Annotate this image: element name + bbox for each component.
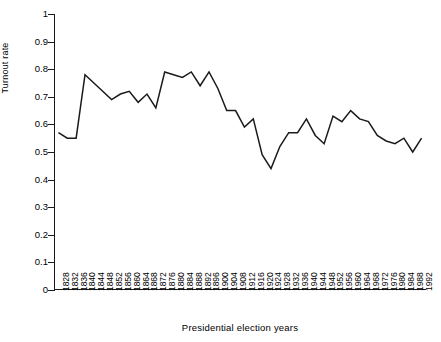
y-tick-label: 0.6 xyxy=(14,119,48,129)
turnout-rate-line xyxy=(58,72,421,169)
y-tick-label: 0.5 xyxy=(14,147,48,157)
y-axis-title: Turnout rate xyxy=(0,8,10,128)
y-tick-label: 0.1 xyxy=(14,257,48,267)
y-tick-mark xyxy=(48,290,55,291)
plot-area xyxy=(54,14,426,290)
x-tick-label: 1860 xyxy=(133,272,142,291)
y-tick-label: 0.7 xyxy=(14,92,48,102)
x-tick-label: 1888 xyxy=(195,272,204,291)
x-axis-title: Presidential election years xyxy=(54,322,426,333)
x-tick-label: 1832 xyxy=(71,272,80,291)
y-tick-label: 0.4 xyxy=(14,175,48,185)
y-tick-label: 0 xyxy=(14,285,48,295)
turnout-rate-line-chart: Turnout rate 10.90.80.70.60.50.40.30.20.… xyxy=(0,0,441,342)
y-tick-label: 0.8 xyxy=(14,64,48,74)
y-tick-label: 1 xyxy=(14,9,48,19)
x-tick-label: 1916 xyxy=(257,272,266,291)
x-tick-label: 1944 xyxy=(319,272,328,291)
x-tick-label: 1972 xyxy=(381,272,390,291)
y-tick-label: 0.2 xyxy=(14,230,48,240)
x-tick-label: 1992 xyxy=(425,272,434,291)
y-tick-label: 0.9 xyxy=(14,37,48,47)
y-tick-label: 0.3 xyxy=(14,202,48,212)
